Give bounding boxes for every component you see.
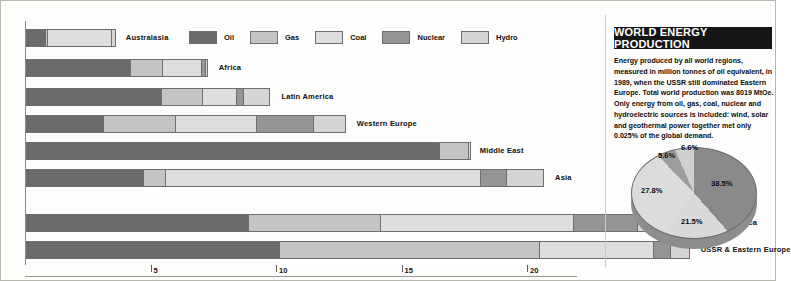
legend-swatch-coal xyxy=(315,31,343,44)
axis-tick xyxy=(402,265,403,272)
legend-item-oil: Oil xyxy=(189,31,236,44)
bar-segment-hydro xyxy=(111,29,116,47)
bar-label: Middle East xyxy=(480,142,524,160)
x-axis: 5101520 xyxy=(25,265,577,279)
bar-segment-gas xyxy=(279,241,540,259)
bar-segment-oil xyxy=(26,115,104,133)
legend-swatch-gas xyxy=(250,31,278,44)
bar-row xyxy=(26,241,690,259)
axis-tick-label: 10 xyxy=(279,266,287,275)
pie-chart: 38.5%21.5%27.8%5.6%6.6% xyxy=(619,129,771,254)
bar-segment-coal xyxy=(468,142,471,160)
info-panel: WORLD ENERGY PRODUCTION Energy produced … xyxy=(605,1,777,281)
bar-segment-oil xyxy=(26,59,131,77)
bar-segment-gas xyxy=(439,142,469,160)
bar-segment-oil xyxy=(26,169,144,187)
legend-item-hydro: Hydro xyxy=(461,31,520,44)
pie-slice-label: 5.6% xyxy=(658,151,675,160)
bar-segment-hydro xyxy=(313,115,346,133)
bar-segment-coal xyxy=(165,169,481,187)
legend-swatch-oil xyxy=(189,31,217,44)
bar-segment-coal xyxy=(162,59,202,77)
pie-slice-label: 38.5% xyxy=(711,179,733,188)
bar-segment-gas xyxy=(130,59,163,77)
bar-segment-gas xyxy=(161,88,204,106)
axis-line xyxy=(25,276,577,277)
bar-segment-oil xyxy=(26,29,46,47)
axis-tick xyxy=(527,265,528,272)
bar-segment-oil xyxy=(26,88,162,106)
bar-segment-coal xyxy=(202,88,237,106)
page-title-text: WORLD ENERGY PRODUCTION xyxy=(614,26,772,50)
bar-label: Latin America xyxy=(281,88,333,106)
legend-swatch-hydro xyxy=(461,31,489,44)
axis-tick-label: 5 xyxy=(154,266,158,275)
legend-item-coal: Coal xyxy=(315,31,368,44)
pie-slice-label: 21.5% xyxy=(681,217,703,226)
pie-slice-label: 6.6% xyxy=(681,143,698,152)
legend-label-coal: Coal xyxy=(350,33,366,42)
bar-segment-coal xyxy=(175,115,258,133)
bar-row xyxy=(26,214,692,232)
panel-divider xyxy=(605,15,606,267)
bar-label: Africa xyxy=(219,59,241,77)
axis-tick-label: 15 xyxy=(405,266,413,275)
bar-row xyxy=(26,115,346,133)
bar-chart-panel: Oil Gas Coal Nuclear Hydro AustralasiaAf… xyxy=(1,1,601,281)
bar-segment-oil xyxy=(26,241,280,259)
axis-tick xyxy=(276,265,277,272)
bar-segment-nuclear xyxy=(480,169,508,187)
axis-tick xyxy=(151,265,152,272)
bar-segment-hydro xyxy=(243,88,271,106)
bar-segment-coal xyxy=(47,29,112,47)
bar-row xyxy=(26,169,544,187)
bar-row xyxy=(26,142,471,160)
legend-item-nuclear: Nuclear xyxy=(382,31,447,44)
legend-label-nuclear: Nuclear xyxy=(417,33,445,42)
pie-slice-label: 27.8% xyxy=(641,186,663,195)
axis-tick-label: 20 xyxy=(530,266,538,275)
bar-segment-gas xyxy=(103,115,176,133)
bar-label: Asia xyxy=(555,169,572,187)
bar-segment-gas xyxy=(248,214,381,232)
bar-label: Western Europe xyxy=(357,115,417,133)
legend-label-oil: Oil xyxy=(224,33,234,42)
bar-segment-oil xyxy=(26,214,249,232)
legend-label-gas: Gas xyxy=(285,33,299,42)
bar-row xyxy=(26,88,270,106)
legend-swatch-nuclear xyxy=(382,31,410,44)
page-title: WORLD ENERGY PRODUCTION xyxy=(614,27,772,49)
bar-segment-coal xyxy=(380,214,573,232)
bar-segment-hydro xyxy=(205,59,208,77)
bar-segment-nuclear xyxy=(256,115,314,133)
bar-label: Australasia xyxy=(126,29,169,47)
bar-segment-oil xyxy=(26,142,440,160)
legend-label-hydro: Hydro xyxy=(496,33,518,42)
legend-item-gas: Gas xyxy=(250,31,301,44)
legend: Oil Gas Coal Nuclear Hydro xyxy=(189,29,534,45)
bar-segment-hydro xyxy=(506,169,544,187)
bar-segment-gas xyxy=(143,169,166,187)
bar-row xyxy=(26,29,116,47)
bar-row xyxy=(26,59,208,77)
